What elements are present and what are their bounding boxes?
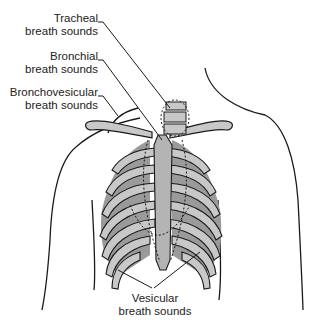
label-bronchovesicular: Bronchovesicular breath sounds: [0, 86, 98, 112]
label-bronchovesicular-line1: Bronchovesicular: [0, 86, 98, 99]
sternum: [154, 135, 172, 270]
label-bronchial-line2: breath sounds: [10, 63, 98, 76]
label-bronchial: Bronchial breath sounds: [10, 50, 98, 76]
label-bronchial-line1: Bronchial: [10, 50, 98, 63]
label-vesicular-line1: Vesicular: [105, 292, 205, 305]
label-vesicular: Vesicular breath sounds: [105, 292, 205, 318]
label-tracheal: Tracheal breath sounds: [10, 12, 98, 38]
label-tracheal-line1: Tracheal: [10, 12, 98, 25]
label-bronchovesicular-line2: breath sounds: [0, 99, 98, 112]
label-vesicular-line2: breath sounds: [105, 305, 205, 318]
trachea: [164, 102, 186, 134]
label-tracheal-line2: breath sounds: [10, 25, 98, 38]
thorax-illustration: [0, 0, 311, 320]
